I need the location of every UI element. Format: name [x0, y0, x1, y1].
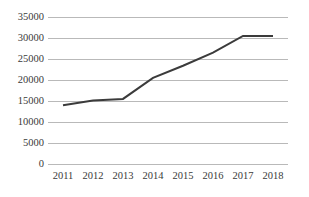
x-axis-tick-label: 2017 [233, 170, 254, 182]
x-axis-tick-label: 2011 [53, 170, 74, 182]
x-axis-tick-label: 2015 [173, 170, 194, 182]
line-chart: 05000100001500020000250003000035000 2011… [0, 0, 309, 197]
x-axis-tick-label: 2013 [113, 170, 134, 182]
series-layer [0, 0, 309, 197]
x-axis-tick-label: 2016 [203, 170, 224, 182]
series-line-path [63, 36, 273, 105]
x-axis-tick-label: 2014 [143, 170, 164, 182]
x-axis-tick-label: 2012 [83, 170, 104, 182]
x-axis-tick-label: 2018 [263, 170, 284, 182]
